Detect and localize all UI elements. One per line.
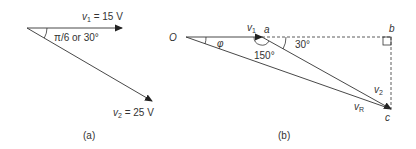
origin-label: O [169, 32, 177, 43]
v2-phasor-b [262, 37, 391, 109]
phi-label: φ [217, 38, 224, 49]
caption-b: (b) [278, 130, 290, 141]
v2-label: v2 = 25 V [113, 107, 154, 119]
angle-label: π/6 or 30° [54, 32, 99, 43]
v2-label-b: v2 [374, 84, 383, 96]
angle-arc-150 [254, 37, 269, 45]
phi-arc [205, 37, 206, 44]
angle-arc-30-b [283, 37, 286, 49]
point-b-label: b [389, 23, 395, 34]
angle-arc-30 [44, 28, 47, 38]
v1-label: v1 = 15 V [82, 11, 123, 23]
phasor-diagram: v1 = 15 V π/6 or 30° v2 = 25 V (a) O φ v… [0, 0, 416, 149]
angle-30-label: 30° [295, 39, 310, 50]
vr-label: vR [354, 101, 364, 113]
point-a-label: a [264, 24, 270, 35]
panel-a: v1 = 15 V π/6 or 30° v2 = 25 V (a) [27, 11, 154, 141]
v1-label-b: v1 [247, 22, 256, 34]
panel-b: O φ v1 a b 30° 150° v2 vR c (b) [169, 22, 395, 141]
right-angle-marker [383, 37, 391, 45]
point-c-label: c [385, 112, 390, 123]
angle-150-label: 150° [254, 50, 275, 61]
caption-a: (a) [83, 130, 95, 141]
